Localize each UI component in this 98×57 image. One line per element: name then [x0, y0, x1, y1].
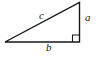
right-triangle-figure: c a b	[0, 0, 98, 57]
label-vertical-leg-a: a	[85, 12, 91, 23]
label-horizontal-leg-b: b	[46, 42, 52, 53]
label-hypotenuse-c: c	[39, 10, 44, 21]
